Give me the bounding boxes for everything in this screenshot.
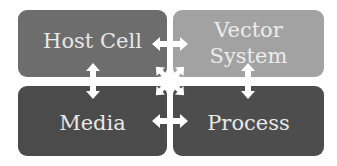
arrow-vector-process-icon xyxy=(241,63,255,99)
arrow-media-process-icon xyxy=(152,114,188,128)
connector-arrows xyxy=(0,0,337,166)
arrow-host-vector-icon xyxy=(152,37,188,51)
arrow-host-media-icon xyxy=(86,63,100,99)
